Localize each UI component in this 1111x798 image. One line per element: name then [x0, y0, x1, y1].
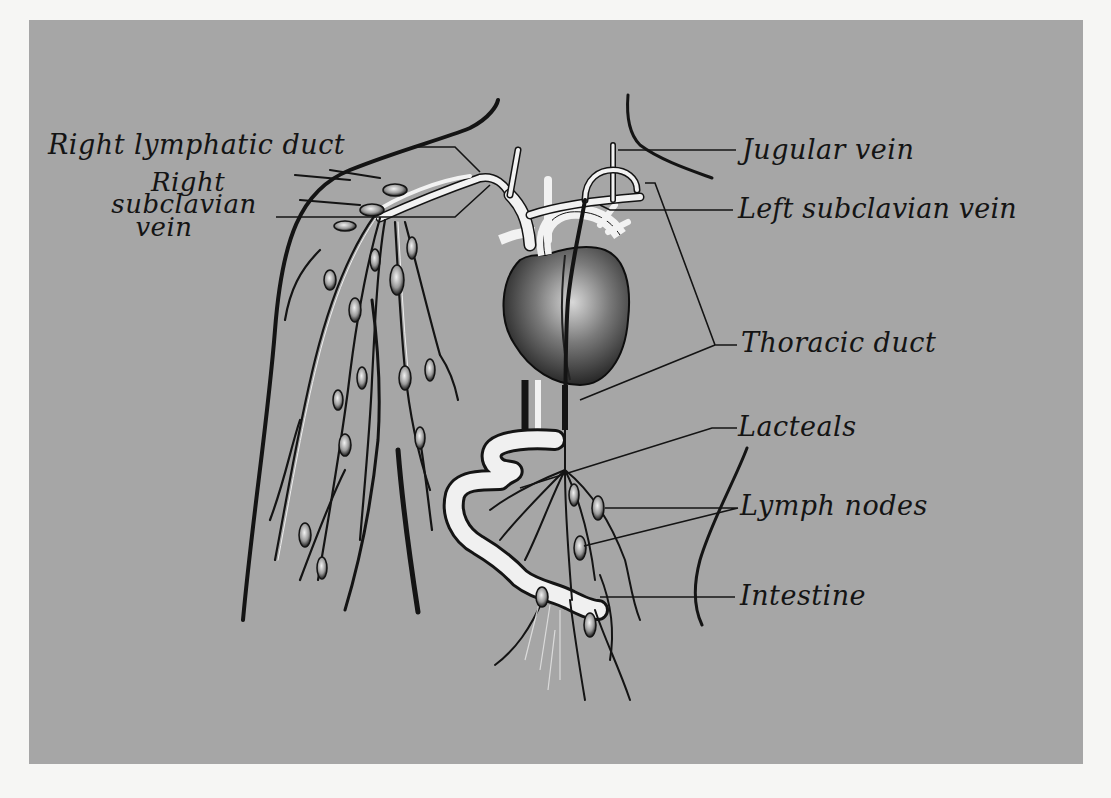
mesentery-highlight	[525, 600, 560, 690]
label-lacteals: Lacteals	[738, 413, 857, 440]
descending-vessels	[525, 380, 565, 430]
label-right-subclavian-vein: Right subclavian vein	[98, 171, 278, 238]
intestine-loop	[454, 439, 598, 610]
leader-right-lymphatic-duct	[418, 147, 480, 172]
leader-lines	[276, 147, 738, 597]
label-thoracic-duct: Thoracic duct	[741, 329, 936, 356]
label-lymph-nodes: Lymph nodes	[740, 492, 928, 519]
label-jugular-vein: Jugular vein	[742, 136, 914, 163]
label-intestine: Intestine	[740, 582, 866, 609]
leader-left-subclavian-vein	[600, 205, 733, 210]
arm-lymph-vessels-highlight	[278, 215, 408, 560]
lymphatic-system-illustration	[0, 0, 1111, 798]
leader-lymph-nodes	[584, 508, 738, 546]
label-left-subclavian-vein: Left subclavian vein	[738, 195, 1017, 222]
label-right-lymphatic-duct: Right lymphatic duct	[48, 131, 345, 158]
right-lymphatic-duct	[370, 176, 470, 215]
label-right-subclavian-line3: vein	[50, 216, 278, 238]
